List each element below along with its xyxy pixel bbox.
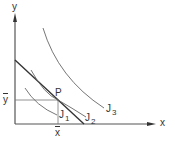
curve-j2-name: J [85, 112, 90, 123]
budget-line [15, 60, 84, 124]
curve-j3 [43, 28, 104, 108]
point-p-label: P [55, 88, 62, 98]
curve-j2-label: J2 [85, 113, 95, 123]
x-bar-label: x [55, 128, 60, 138]
curve-j3-name: J [106, 103, 111, 114]
y-axis-label: y [12, 2, 17, 12]
curve-j2-subscript: 2 [91, 117, 95, 126]
curve-j1-subscript: 1 [65, 114, 69, 123]
x-axis-label: x [160, 118, 165, 128]
curve-j3-label: J3 [106, 104, 116, 114]
x-axis-arrow-icon [147, 122, 156, 126]
curve-j1-name: J [59, 109, 64, 120]
curve-j1 [25, 88, 57, 115]
y-axis-arrow-icon [13, 13, 17, 22]
indifference-curve-diagram: y x P y x J1 J2 J3 [0, 0, 175, 143]
y-bar-label: y [3, 95, 8, 105]
curve-j3-subscript: 3 [112, 108, 116, 117]
curve-j1-label: J1 [59, 110, 69, 120]
